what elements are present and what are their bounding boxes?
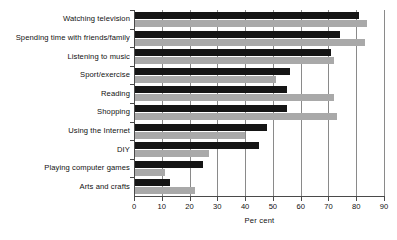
bar-series-light [134, 150, 209, 157]
bar-group [134, 29, 384, 48]
y-tick [130, 84, 134, 85]
x-tick [134, 197, 135, 201]
category-label: Listening to music [2, 52, 130, 61]
bar-chart: Watching televisionSpending time with fr… [0, 0, 397, 240]
bar-series-dark [134, 49, 331, 56]
bar-series-light [134, 39, 365, 46]
bar-series-dark [134, 12, 359, 19]
y-tick [130, 66, 134, 67]
bar-series-light [134, 132, 245, 139]
bar-group [134, 47, 384, 66]
bar-series-light [134, 20, 367, 27]
x-tick-label: 80 [352, 202, 360, 211]
category-label: Reading [2, 89, 130, 98]
x-tick-label: 60 [296, 202, 304, 211]
bar-series-dark [134, 124, 267, 131]
bar-group [134, 177, 384, 196]
category-label: Sport/exercise [2, 70, 130, 79]
bar-series-dark [134, 86, 287, 93]
x-tick [162, 197, 163, 201]
y-tick [130, 103, 134, 104]
y-axis-line [134, 10, 135, 197]
x-tick-label: 10 [158, 202, 166, 211]
bar-group [134, 159, 384, 178]
x-tick [217, 197, 218, 201]
category-label: Spending time with friends/family [2, 33, 130, 42]
bar-series-light [134, 113, 337, 120]
bar-series-light [134, 57, 334, 64]
bar-group [134, 103, 384, 122]
bar-series-dark [134, 179, 170, 186]
x-tick-label: 0 [132, 202, 136, 211]
category-label: Playing computer games [2, 163, 130, 172]
x-tick [190, 197, 191, 201]
x-tick-label: 90 [380, 202, 388, 211]
category-label: Watching television [2, 14, 130, 23]
y-tick [130, 47, 134, 48]
x-tick [301, 197, 302, 201]
x-tick-label: 30 [213, 202, 221, 211]
bar-group [134, 66, 384, 85]
x-tick [356, 197, 357, 201]
x-tick [328, 197, 329, 201]
x-tick [273, 197, 274, 201]
gridline-90 [384, 10, 385, 196]
category-label: Shopping [2, 107, 130, 116]
bar-series-light [134, 76, 276, 83]
y-tick [130, 29, 134, 30]
bar-series-dark [134, 68, 290, 75]
x-tick-label: 40 [241, 202, 249, 211]
x-axis-line [134, 196, 385, 197]
y-tick [130, 159, 134, 160]
x-tick [245, 197, 246, 201]
bar-series-light [134, 94, 334, 101]
bar-series-dark [134, 161, 203, 168]
x-axis-title: Per cent [134, 216, 385, 225]
bar-series-dark [134, 31, 340, 38]
bar-group [134, 84, 384, 103]
category-label: Arts and crafts [2, 182, 130, 191]
bar-series-light [134, 187, 195, 194]
y-tick [130, 122, 134, 123]
bar-group [134, 10, 384, 29]
bar-group [134, 122, 384, 141]
category-label: Using the Internet [2, 126, 130, 135]
x-tick-label: 70 [324, 202, 332, 211]
x-tick [384, 197, 385, 201]
x-tick-label: 50 [269, 202, 277, 211]
category-axis-labels: Watching televisionSpending time with fr… [0, 10, 130, 196]
category-label: DIY [2, 145, 130, 154]
y-tick [130, 10, 134, 11]
bar-group [134, 140, 384, 159]
bar-series-light [134, 169, 165, 176]
y-tick [130, 140, 134, 141]
plot-area [134, 10, 384, 196]
y-tick [130, 177, 134, 178]
bar-series-dark [134, 142, 259, 149]
x-tick-label: 20 [185, 202, 193, 211]
bar-series-dark [134, 105, 287, 112]
